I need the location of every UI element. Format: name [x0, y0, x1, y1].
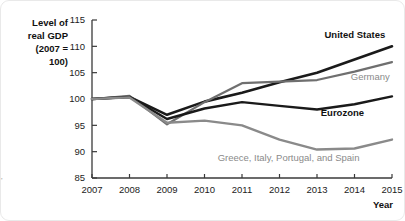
series-label-germany: Germany [351, 71, 390, 82]
x-axis-tick-label: 2007 [81, 184, 102, 195]
x-axis-tick-label: 2013 [306, 184, 327, 195]
x-axis-tick-label: 2014 [344, 184, 365, 195]
y-axis-label-line: real GDP [28, 30, 69, 41]
chart-figure: ' 85909510010511011520072008200920102011… [0, 0, 405, 221]
y-axis-tick-label: 115 [70, 14, 85, 25]
y-axis-tick-label: 85 [74, 172, 85, 183]
x-axis-tick-label: 2012 [269, 184, 290, 195]
y-axis-label-line: Level of [32, 17, 69, 28]
y-axis-tick-label: 95 [74, 120, 85, 131]
x-axis-tick-label: 2008 [119, 184, 140, 195]
x-axis-tick-label: 2015 [381, 184, 402, 195]
line-chart: 8590951001051101152007200820092010201120… [0, 0, 405, 221]
series-label-united-states: United States [325, 29, 386, 40]
y-axis-tick-label: 110 [70, 41, 85, 52]
x-axis-label: Year [373, 199, 393, 210]
x-axis-tick-label: 2011 [232, 184, 252, 195]
y-axis-label-line: 100) [49, 56, 68, 67]
x-axis-tick-label: 2009 [156, 184, 177, 195]
y-axis-tick-label: 100 [69, 93, 85, 104]
x-axis-tick-label: 2010 [194, 184, 215, 195]
y-axis-label-line: (2007 = [36, 43, 69, 54]
series-label-greece-italy-portugal-and-spain: Greece, Italy, Portugal, and Spain [218, 152, 360, 163]
y-axis-tick-label: 90 [74, 146, 85, 157]
series-label-eurozone: Eurozone [321, 107, 364, 118]
y-axis-tick-label: 105 [69, 67, 85, 78]
